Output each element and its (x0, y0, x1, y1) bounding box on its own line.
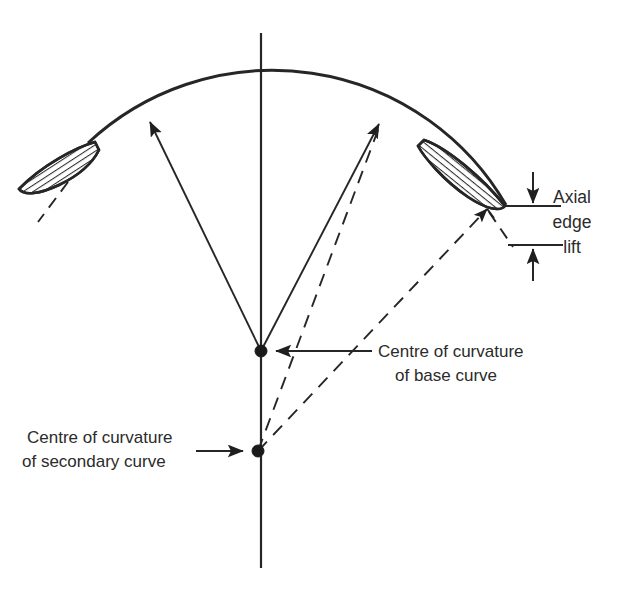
peripheral-curve-section-right (410, 130, 520, 225)
base-radius-arrow-left (150, 122, 261, 351)
secondary-curve-centre-label-line1: Centre of curvature (27, 428, 173, 447)
secondary-dashed-right-lower (489, 212, 513, 247)
secondary-radius-dashed-outer (258, 209, 487, 451)
base-curve-centre-label-line1: Centre of curvature (378, 342, 524, 361)
peripheral-curve-section-left (10, 132, 110, 202)
axial-edge-lift-label-line3: lift (563, 237, 581, 257)
base-curve-centre-label-line2: of base curve (395, 366, 497, 385)
secondary-curve-centre-dot (252, 445, 264, 457)
base-radius-arrow-right (261, 124, 379, 351)
secondary-curve-centre-label-line2: of secondary curve (22, 452, 166, 471)
base-curve-arc (88, 70, 506, 205)
figure-canvas: Axial edge lift Centre of curvature of b… (0, 0, 624, 594)
secondary-radius-dashed-inner (258, 122, 381, 451)
base-curve-centre-dot (255, 345, 267, 357)
hatching-right (410, 130, 520, 225)
axial-edge-lift-diagram: Axial edge lift Centre of curvature of b… (0, 0, 624, 594)
axial-edge-lift-label-line2: edge (553, 212, 592, 232)
axial-edge-lift-label-line1: Axial (553, 187, 591, 207)
